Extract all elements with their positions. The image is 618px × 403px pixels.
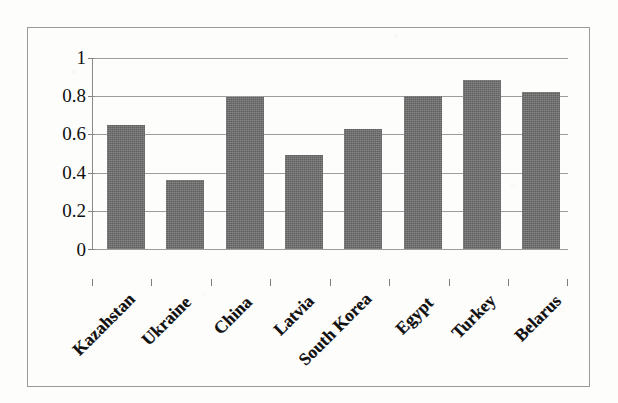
bar-china [226, 97, 264, 249]
y-tick-label-0.8: 0.8 [34, 86, 86, 105]
x-axis-tick-labels: Kazahstan Ukraine China Latvia South Kor… [92, 253, 592, 373]
x-label-egypt: Egypt [392, 293, 436, 337]
bar-egypt [404, 96, 442, 249]
plot-area [92, 58, 568, 249]
y-tick-label-0.2: 0.2 [34, 201, 86, 220]
y-tick-label-0.4: 0.4 [34, 163, 86, 182]
x-label-turkey: Turkey [448, 291, 499, 342]
x-label-belarus: Belarus [511, 291, 564, 344]
bar-ukraine [166, 180, 204, 249]
chart-screenshot: 1 0.8 0.6 0.4 0.2 0 [0, 0, 618, 403]
x-label-china: China [210, 293, 255, 338]
x-label-kazahstan: Kazahstan [69, 290, 138, 359]
y-tick-label-1: 1 [34, 48, 86, 67]
bar-turkey [463, 80, 501, 249]
x-axis-baseline [92, 249, 568, 250]
y-tick-label-0.6: 0.6 [34, 124, 86, 143]
y-tick-label-0: 0 [34, 240, 86, 259]
bar-kazahstan [107, 125, 145, 249]
bar-belarus [522, 92, 560, 249]
x-label-latvia: Latvia [270, 292, 317, 339]
chart-frame-border: 1 0.8 0.6 0.4 0.2 0 [27, 27, 590, 387]
y-axis-tick-labels: 1 0.8 0.6 0.4 0.2 0 [28, 28, 86, 288]
gridline-1 [92, 58, 568, 59]
x-label-ukraine: Ukraine [138, 293, 194, 349]
bar-latvia [285, 155, 323, 249]
bar-south-korea [344, 129, 382, 249]
